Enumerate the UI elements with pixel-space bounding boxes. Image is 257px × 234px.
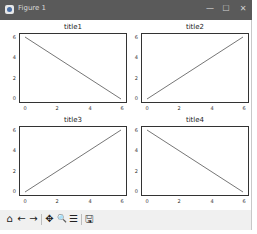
y-tick-label: 4 xyxy=(8,54,16,60)
y-tick-label: 4 xyxy=(130,54,138,60)
y-tick-label: 0 xyxy=(8,95,16,101)
x-tick-label: 6 xyxy=(240,198,248,204)
y-tick-label: 6 xyxy=(130,34,138,40)
zoom-icon[interactable]: 🔍 xyxy=(56,213,67,225)
toolbar-separator xyxy=(81,214,82,225)
line-descending xyxy=(20,34,126,102)
y-tick-label: 2 xyxy=(8,168,16,174)
y-tick-label: 6 xyxy=(8,34,16,40)
close-button[interactable]: ✕ xyxy=(237,3,249,15)
figure-canvas[interactable]: title1 6 4 2 0 0 2 4 6 title2 6 4 2 0 0 … xyxy=(0,20,251,210)
x-tick-label: 0 xyxy=(143,198,151,204)
axes-4[interactable] xyxy=(141,126,249,196)
y-tick-label: 6 xyxy=(130,127,138,133)
plot-title: title4 xyxy=(141,116,249,124)
pan-icon[interactable]: ✥ xyxy=(44,213,55,225)
x-tick-label: 2 xyxy=(53,105,61,111)
y-tick-label: 2 xyxy=(130,168,138,174)
x-tick-label: 2 xyxy=(53,198,61,204)
maximize-button[interactable]: ☐ xyxy=(220,3,232,15)
figure-window: Figure 1 — ☐ ✕ title1 6 4 2 0 0 2 4 6 ti… xyxy=(0,0,252,230)
y-tick-label: 0 xyxy=(130,95,138,101)
save-icon[interactable]: 🖫 xyxy=(84,213,95,225)
plot-title: title1 xyxy=(19,23,127,31)
axes-2[interactable] xyxy=(141,33,249,103)
back-icon[interactable]: ← xyxy=(16,213,27,225)
minimize-button[interactable]: — xyxy=(204,3,216,15)
y-tick-label: 2 xyxy=(130,75,138,81)
y-tick-label: 4 xyxy=(130,147,138,153)
window-title: Figure 1 xyxy=(18,4,46,12)
y-tick-label: 4 xyxy=(8,147,16,153)
toolbar-separator xyxy=(41,214,42,225)
x-tick-label: 4 xyxy=(86,105,94,111)
line-ascending xyxy=(20,127,126,195)
configure-subplots-icon[interactable]: ☰ xyxy=(68,213,79,225)
x-tick-label: 0 xyxy=(21,198,29,204)
plot-title: title2 xyxy=(141,23,249,31)
x-tick-label: 4 xyxy=(208,105,216,111)
x-tick-label: 4 xyxy=(208,198,216,204)
axes-3[interactable] xyxy=(19,126,127,196)
x-tick-label: 0 xyxy=(21,105,29,111)
y-tick-label: 0 xyxy=(8,188,16,194)
x-tick-label: 2 xyxy=(175,105,183,111)
title-bar[interactable]: Figure 1 — ☐ ✕ xyxy=(0,0,252,20)
x-tick-label: 0 xyxy=(143,105,151,111)
x-tick-label: 4 xyxy=(86,198,94,204)
x-tick-label: 6 xyxy=(118,198,126,204)
x-tick-label: 6 xyxy=(240,105,248,111)
line-ascending xyxy=(142,34,248,102)
app-icon xyxy=(5,5,14,14)
axes-1[interactable] xyxy=(19,33,127,103)
line-descending xyxy=(142,127,248,195)
forward-icon[interactable]: → xyxy=(28,213,39,225)
x-tick-label: 6 xyxy=(118,105,126,111)
home-icon[interactable]: ⌂ xyxy=(4,213,15,225)
plot-title: title3 xyxy=(19,116,127,124)
navigation-toolbar: ⌂ ← → ✥ 🔍 ☰ 🖫 xyxy=(0,210,251,230)
y-tick-label: 6 xyxy=(8,127,16,133)
y-tick-label: 0 xyxy=(130,188,138,194)
x-tick-label: 2 xyxy=(175,198,183,204)
y-tick-label: 2 xyxy=(8,75,16,81)
